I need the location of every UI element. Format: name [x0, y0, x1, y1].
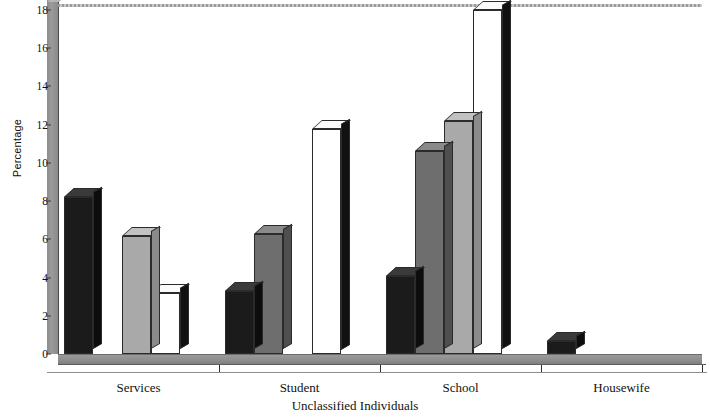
bar-side-face	[180, 283, 189, 349]
x-axis-category-label: Services	[116, 380, 160, 396]
x-axis-tick-mark	[380, 365, 381, 372]
bar-chart: Percentage 024681012141618ServicesStuden…	[0, 0, 710, 419]
x-axis-line	[47, 372, 707, 373]
plot-baseline	[58, 354, 702, 355]
bar-side-face	[151, 225, 160, 349]
y-axis-wall	[47, 0, 59, 354]
bar-front-face	[225, 291, 254, 354]
bar-side-face	[444, 141, 453, 349]
bar-student-series-4	[312, 129, 341, 355]
y-axis-tick-mark	[46, 277, 51, 278]
y-axis-tick-mark	[46, 124, 51, 125]
bar-housewife-series-1	[547, 341, 576, 354]
plot-area: 024681012141618ServicesStudentSchoolHous…	[58, 10, 702, 354]
y-axis-tick-mark	[46, 354, 51, 355]
x-axis-category-label: Housewife	[593, 380, 649, 396]
y-axis-tick-mark	[46, 315, 51, 316]
x-axis-category-label: Student	[280, 380, 320, 396]
y-axis-tick-mark	[46, 239, 51, 240]
x-axis-title: Unclassified Individuals	[0, 398, 710, 414]
bar-services-series-3	[122, 236, 151, 354]
bar-side-face	[283, 223, 292, 349]
bar-front-face	[122, 236, 151, 354]
bar-side-face	[502, 0, 511, 349]
y-axis-tick-mark	[46, 48, 51, 49]
bar-front-face	[547, 341, 576, 354]
bar-side-face	[415, 265, 424, 349]
x-axis-tick-mark	[219, 365, 220, 372]
bar-side-face	[93, 187, 102, 349]
bar-services-series-1	[64, 197, 93, 354]
x-axis-tick-mark	[541, 365, 542, 372]
bar-side-face	[254, 281, 263, 349]
bar-student-series-1	[225, 291, 254, 354]
y-axis-wall-top	[47, 0, 66, 2]
plot-floor	[58, 354, 702, 364]
bar-school-series-1	[386, 276, 415, 354]
y-axis-title: Percentage	[11, 98, 23, 198]
bar-front-face	[64, 197, 93, 354]
y-axis-tick-mark	[46, 162, 51, 163]
plot-top-rule	[58, 4, 702, 7]
bar-front-face	[386, 276, 415, 354]
y-axis-tick-mark	[46, 86, 51, 87]
y-axis-tick-mark	[46, 10, 51, 11]
x-axis-category-label: School	[442, 380, 478, 396]
plot-floor-edge	[58, 364, 706, 365]
y-axis-tick-mark	[46, 201, 51, 202]
bar-side-face	[473, 111, 482, 349]
x-axis-tick-mark	[702, 365, 703, 372]
bar-front-face	[312, 129, 341, 355]
bar-side-face	[341, 118, 350, 349]
